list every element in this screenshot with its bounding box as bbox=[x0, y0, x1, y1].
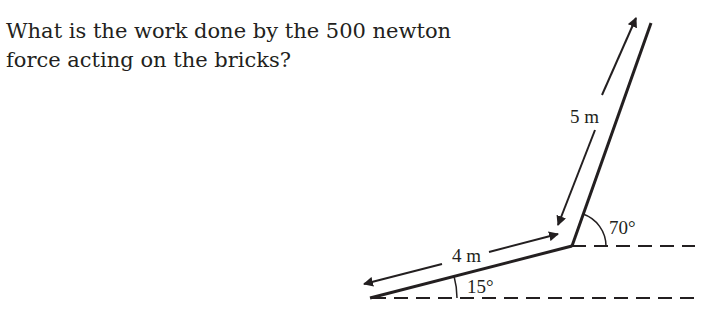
ramp-diagram: 4 m 5 m 70° 15° bbox=[0, 0, 713, 330]
upper-distance-label: 5 m bbox=[570, 106, 599, 127]
lower-distance-arrow-right bbox=[489, 234, 558, 252]
upper-ramp-surface bbox=[572, 23, 651, 246]
lower-angle-arc bbox=[454, 276, 457, 298]
upper-angle-arc bbox=[583, 214, 606, 246]
lower-distance-label: 4 m bbox=[452, 245, 481, 266]
upper-angle-label: 70° bbox=[609, 217, 636, 238]
upper-distance-arrow-down bbox=[558, 130, 595, 225]
lower-angle-label: 15° bbox=[467, 276, 494, 297]
